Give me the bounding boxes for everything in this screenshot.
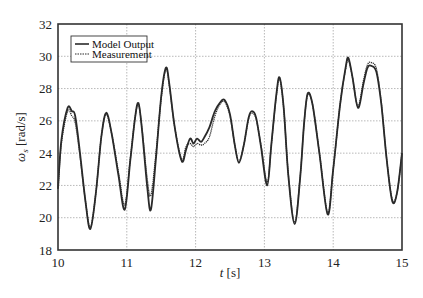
x-axis-label-unit: [s] <box>223 265 240 280</box>
y-tick-label: 30 <box>39 49 52 64</box>
y-tick-label: 20 <box>39 210 52 225</box>
y-axis-label-unit: [rad/s] <box>13 112 28 149</box>
y-tick-label: 24 <box>39 146 53 161</box>
x-tick-label: 12 <box>189 255 202 270</box>
line-chart: 101112131415 1820222426283032 t [s] ωs [… <box>0 0 423 298</box>
x-tick-label: 14 <box>327 255 341 270</box>
y-tick-label: 32 <box>39 17 52 32</box>
y-axis-label: ωs [rad/s] <box>13 112 30 162</box>
x-tick-label: 13 <box>258 255 271 270</box>
x-axis-label: t [s] <box>220 265 241 280</box>
x-tick-label: 15 <box>396 255 409 270</box>
legend: Model Output Measurement <box>71 36 154 62</box>
chart-background <box>0 0 423 298</box>
x-tick-label: 10 <box>52 255 65 270</box>
y-axis-label-symbol: ω <box>13 153 28 162</box>
x-tick-label: 11 <box>121 255 134 270</box>
y-tick-label: 26 <box>39 113 53 128</box>
legend-label-measurement: Measurement <box>92 48 152 60</box>
y-tick-label: 22 <box>39 178 52 193</box>
y-tick-label: 18 <box>39 243 52 258</box>
y-tick-label: 28 <box>39 81 52 96</box>
